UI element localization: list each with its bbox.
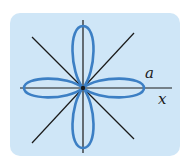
label-x-axis: x	[158, 92, 166, 107]
label-a: a	[145, 66, 154, 81]
origin-point	[81, 86, 85, 90]
rose-curve-diagram	[0, 0, 187, 163]
